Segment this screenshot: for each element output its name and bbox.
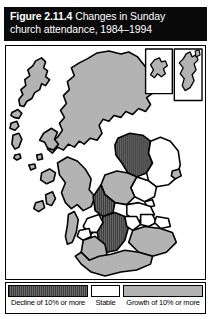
region-orkney: [151, 58, 168, 78]
map-frame: [5, 45, 206, 280]
legend-label-stable: Stable: [91, 298, 120, 308]
figure-title-line-1: Figure 2.11.4 Changes in Sunday: [10, 10, 202, 23]
legend-swatch-decline: [8, 285, 88, 297]
legend-label-growth: Growth of 10% or more: [123, 298, 203, 308]
figure-title-text: Changes in Sunday: [72, 10, 165, 22]
legend-label-decline: Decline of 10% or more: [8, 298, 88, 308]
region-rum-eigg: [37, 154, 43, 160]
legend-swatch-stable: [91, 285, 120, 297]
figure-number: Figure 2.11.4: [10, 10, 72, 22]
legend-swatch-row: [8, 285, 203, 297]
figure-title-bar: Figure 2.11.4 Changes in Sunday church a…: [4, 7, 207, 41]
legend-swatch-growth: [123, 285, 203, 297]
legend: Decline of 10% or more Stable Growth of …: [5, 282, 206, 314]
figure-container: Figure 2.11.4 Changes in Sunday church a…: [0, 0, 211, 319]
region-aberdeen-city: [171, 169, 181, 179]
region-barra: [14, 154, 21, 160]
region-coll-tiree: [29, 164, 36, 170]
orkney-inset: [146, 49, 173, 94]
scotland-map: [6, 46, 205, 279]
shetland-inset: [174, 49, 202, 101]
legend-label-row: Decline of 10% or more Stable Growth of …: [8, 298, 203, 308]
figure-title-line-2: church attendance, 1984–1994: [10, 23, 202, 36]
region-unst: [195, 50, 200, 57]
